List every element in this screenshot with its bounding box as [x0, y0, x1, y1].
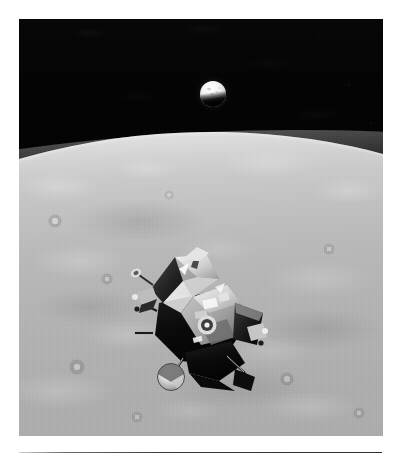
lunar-module-ascent-stage	[123, 241, 273, 396]
lm-docking-target	[198, 316, 217, 335]
apollo-lunar-module-ascent-stage-photo	[19, 19, 383, 436]
lm-ascent-engine-bell	[158, 363, 185, 390]
page-canvas	[0, 0, 402, 459]
lm-s-band-antenna	[129, 267, 153, 285]
horizontal-rule	[19, 452, 382, 453]
